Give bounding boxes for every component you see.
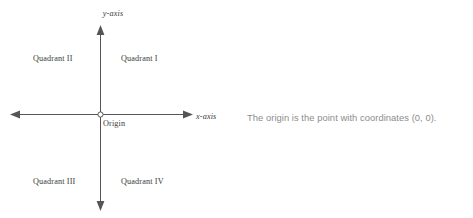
cartesian-plane-diagram: y-axis x-axis Origin Quadrant I Quadrant… <box>0 0 240 218</box>
x-axis-left-arrowhead <box>10 111 20 119</box>
y-axis-up-arrowhead <box>97 25 105 35</box>
quadrant-2-label: Quadrant II <box>33 54 73 64</box>
origin-definition-caption: The origin is the point with coordinates… <box>247 111 462 124</box>
x-axis-right-arrowhead <box>183 111 193 119</box>
origin-label: Origin <box>103 119 125 129</box>
y-axis-down-arrowhead <box>97 201 105 211</box>
quadrant-4-label: Quadrant IV <box>121 177 164 187</box>
quadrant-1-label: Quadrant I <box>121 54 158 64</box>
x-axis-label: x-axis <box>196 112 216 122</box>
origin-point-marker <box>98 112 103 117</box>
coordinate-plane-figure: y-axis x-axis Origin Quadrant I Quadrant… <box>0 0 473 218</box>
y-axis-label: y-axis <box>103 9 123 19</box>
quadrant-3-label: Quadrant III <box>33 177 76 187</box>
